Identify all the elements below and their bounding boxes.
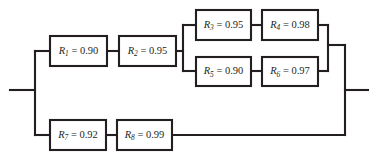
block-r2: R2 = 0.95 <box>119 36 176 66</box>
block-label-r8: R8 = 0.99 <box>124 129 165 142</box>
diagram-canvas: R1 = 0.90R2 = 0.95R3 = 0.95R4 = 0.98R5 =… <box>0 0 380 161</box>
block-label-r3: R3 = 0.95 <box>203 19 244 32</box>
reliability-block-diagram: R1 = 0.90R2 = 0.95R3 = 0.95R4 = 0.98R5 =… <box>0 0 380 161</box>
block-label-r5: R5 = 0.90 <box>203 65 244 78</box>
block-r5: R5 = 0.90 <box>196 57 251 86</box>
block-label-r2: R2 = 0.95 <box>127 45 168 58</box>
block-label-r7: R7 = 0.92 <box>57 129 98 142</box>
block-r6: R6 = 0.97 <box>262 57 318 86</box>
block-r3: R3 = 0.95 <box>196 10 251 40</box>
block-label-r1: R1 = 0.90 <box>58 45 99 58</box>
block-label-r4: R4 = 0.98 <box>269 19 310 32</box>
block-r7: R7 = 0.92 <box>50 120 106 150</box>
block-label-r6: R6 = 0.97 <box>269 65 310 78</box>
block-r4: R4 = 0.98 <box>262 10 318 40</box>
block-r1: R1 = 0.90 <box>50 36 107 66</box>
block-r8: R8 = 0.99 <box>117 120 172 150</box>
